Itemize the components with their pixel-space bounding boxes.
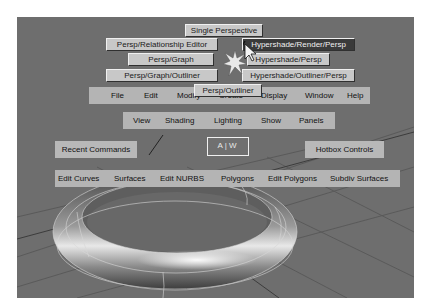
menu-shading[interactable]: Shading	[165, 112, 194, 129]
menu-edit[interactable]: Edit	[144, 87, 158, 104]
layout-persp-graph-button[interactable]: Persp/Graph	[128, 53, 214, 66]
layout-hypershade-outliner-persp-button[interactable]: Hypershade/Outliner/Persp	[242, 69, 355, 82]
layout-hypershade-persp-button[interactable]: Hypershade/Persp	[247, 53, 330, 66]
menu-file[interactable]: File	[111, 87, 124, 104]
layout-hypershade-render-persp-button[interactable]: Hypershade/Render/Persp	[242, 38, 355, 51]
layout-persp-graph-outliner-button[interactable]: Persp/Graph/Outliner	[106, 69, 218, 82]
menu-subdiv-surfaces[interactable]: Subdiv Surfaces	[330, 170, 388, 187]
menu-panels[interactable]: Panels	[299, 112, 323, 129]
layout-persp-relationship-editor-button[interactable]: Persp/Relationship Editor	[106, 38, 218, 51]
recent-commands-menu[interactable]: Recent Commands	[55, 141, 137, 158]
menu-show[interactable]: Show	[261, 112, 281, 129]
menu-help[interactable]: Help	[347, 87, 363, 104]
module-menu-bar: Edit Curves Surfaces Edit NURBS Polygons…	[55, 170, 400, 187]
layout-persp-outliner-button-overlay[interactable]: Persp/Outliner	[194, 84, 262, 97]
menu-edit-curves[interactable]: Edit Curves	[58, 170, 99, 187]
mouse-cursor-icon	[243, 41, 257, 63]
hotbox-controls-menu[interactable]: Hotbox Controls	[305, 141, 384, 158]
perspective-viewport[interactable]: Single Perspective Persp/Relationship Ed…	[17, 17, 414, 298]
menu-lighting[interactable]: Lighting	[214, 112, 242, 129]
menu-display[interactable]: Display	[261, 87, 287, 104]
menu-surfaces[interactable]: Surfaces	[114, 170, 146, 187]
layout-single-perspective-button[interactable]: Single Perspective	[185, 24, 263, 37]
menu-polygons[interactable]: Polygons	[221, 170, 254, 187]
center-zone-aw[interactable]: A|W	[207, 137, 249, 156]
menu-edit-polygons[interactable]: Edit Polygons	[268, 170, 317, 187]
panel-menu-bar: View Shading Lighting Show Panels	[123, 112, 335, 129]
menu-view[interactable]: View	[133, 112, 150, 129]
menu-edit-nurbs[interactable]: Edit NURBS	[160, 170, 204, 187]
menu-window[interactable]: Window	[305, 87, 333, 104]
